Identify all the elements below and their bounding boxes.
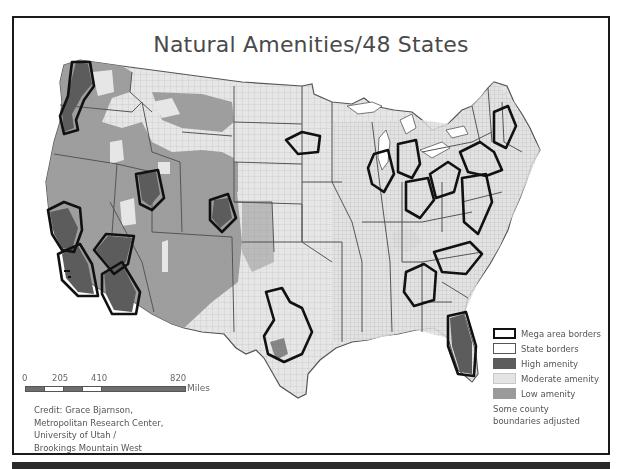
low-amenity-swatch-icon xyxy=(493,388,516,399)
scale-tick: 0 xyxy=(22,373,27,383)
scale-unit: Miles xyxy=(187,383,210,393)
legend-item-high: High amenity xyxy=(493,356,608,371)
scale-segment xyxy=(63,386,83,392)
legend-note-line: boundaries adjusted xyxy=(493,415,608,427)
mega-border-swatch-icon xyxy=(493,328,516,339)
credit-line: Metropolitan Research Center, xyxy=(34,417,163,430)
map-frame: Natural Amenities/48 States xyxy=(12,16,610,455)
credit-line: Credit: Grace Bjarnson, xyxy=(34,404,163,417)
legend-label: Mega area borders xyxy=(521,329,601,339)
legend-item-mega: Mega area borders xyxy=(493,326,608,341)
legend-item-moderate: Moderate amenity xyxy=(493,371,608,386)
scale-bar: 0 205 410 820 Miles xyxy=(22,373,222,403)
credit-line: University of Utah / xyxy=(34,429,163,442)
legend-note: Some county boundaries adjusted xyxy=(493,403,608,427)
scale-tick: 410 xyxy=(91,373,107,383)
legend-label: Moderate amenity xyxy=(521,374,599,384)
scale-segment xyxy=(25,386,45,392)
legend-note-line: Some county xyxy=(493,403,608,415)
legend-label: Low amenity xyxy=(521,389,575,399)
credit-line: Brookings Mountain West xyxy=(34,442,163,455)
state-border-swatch-icon xyxy=(493,343,516,354)
legend-label: High amenity xyxy=(521,359,578,369)
scale-segment xyxy=(44,386,64,392)
legend-item-state: State borders xyxy=(493,341,608,356)
scale-tick: 820 xyxy=(170,373,186,383)
scale-tick: 205 xyxy=(52,373,68,383)
bottom-bar xyxy=(12,462,610,469)
high-amenity-swatch-icon xyxy=(493,358,516,369)
legend-item-low: Low amenity xyxy=(493,386,608,401)
map-credit: Credit: Grace Bjarnson, Metropolitan Res… xyxy=(34,404,163,454)
moderate-amenity-swatch-icon xyxy=(493,373,516,384)
scale-segment xyxy=(101,386,186,392)
map-legend: Mega area borders State borders High ame… xyxy=(493,326,608,427)
scale-segment xyxy=(82,386,102,392)
legend-label: State borders xyxy=(521,344,579,354)
